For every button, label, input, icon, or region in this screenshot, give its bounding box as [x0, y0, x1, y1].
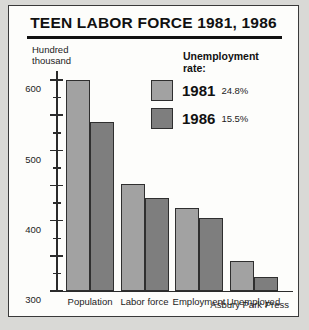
bar-labor-force-1981 [121, 184, 145, 291]
y-tick-300: 300 [50, 185, 63, 187]
bar-employment-1986 [199, 218, 223, 291]
page-title: TEEN LABOR FORCE 1981, 1986 [9, 14, 298, 32]
y-tick-label-300: 300 [25, 294, 41, 305]
y-tick-label-400: 400 [25, 223, 41, 234]
legend-title-line1: Unemployment [183, 50, 291, 62]
bar-population-1986 [90, 122, 114, 291]
y-minor-tick-550 [53, 97, 61, 99]
y-minor-tick-150 [53, 238, 61, 240]
y-tick-label-600: 600 [25, 83, 41, 94]
y-axis-label-line2: thousand [32, 55, 71, 66]
bar-unemployed-1986 [254, 277, 278, 291]
x-label-population: Population [68, 296, 113, 307]
source-credit: Asbury Park Press [210, 299, 289, 310]
y-minor-tick-50 [53, 273, 61, 275]
y-axis-line [56, 71, 58, 292]
y-minor-tick-350 [53, 167, 61, 169]
y-minor-tick-250 [53, 202, 61, 204]
chart-frame: TEEN LABOR FORCE 1981, 1986 Hundred thou… [8, 5, 299, 317]
plot-area: 0100200300400500600 PopulationLabor forc… [56, 71, 291, 286]
title-divider [27, 36, 282, 39]
y-tick-0: 0 [50, 290, 63, 292]
x-label-labor-force: Labor force [120, 296, 168, 307]
y-tick-100: 100 [50, 255, 63, 257]
y-minor-tick-450 [53, 132, 61, 134]
y-axis-label: Hundred thousand [32, 44, 71, 66]
bar-population-1981 [66, 80, 90, 291]
y-tick-400: 400 [50, 150, 63, 152]
y-tick-600: 600 [50, 79, 63, 81]
y-axis-label-line1: Hundred [32, 44, 71, 55]
bar-unemployed-1981 [230, 261, 254, 291]
y-tick-200: 200 [50, 220, 63, 222]
y-tick-500: 500 [50, 114, 63, 116]
bar-employment-1981 [175, 208, 199, 291]
bar-labor-force-1986 [145, 198, 169, 291]
y-tick-label-500: 500 [25, 153, 41, 164]
